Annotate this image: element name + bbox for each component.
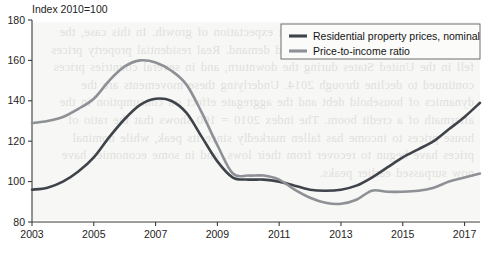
x-tick-label: 2013	[329, 228, 353, 240]
chart-legend: Residential property prices, nominalPric…	[281, 24, 480, 59]
y-tick-label: 160	[7, 54, 25, 66]
x-tick-group: 20032005200720092011201320152017	[20, 222, 476, 240]
series-group	[32, 60, 480, 204]
chart-title: Index 2010=100	[32, 3, 108, 15]
y-tick-group: 80100120140160180	[7, 14, 32, 228]
y-tick-label: 100	[7, 175, 25, 187]
x-tick-label: 2009	[206, 228, 230, 240]
x-tick-label: 2011	[268, 228, 291, 240]
x-tick-label: 2017	[453, 228, 477, 240]
y-tick-label: 80	[13, 216, 25, 228]
series-line-nominal	[32, 98, 480, 190]
legend-label-0: Residential property prices, nominal	[313, 30, 480, 42]
line-chart-svg: Index 2010=100 80100120140160180 2003200…	[0, 0, 492, 259]
x-tick-label: 2003	[20, 228, 44, 240]
y-tick-label: 120	[7, 135, 25, 147]
x-tick-label: 2015	[391, 228, 415, 240]
y-axis: 80100120140160180	[7, 14, 32, 228]
y-tick-label: 140	[7, 94, 25, 106]
legend-label-1: Price-to-income ratio	[313, 45, 410, 57]
x-axis: 20032005200720092011201320152017	[20, 222, 480, 240]
chart-figure: ne explained by a sustained, correct exp…	[0, 0, 492, 259]
x-tick-label: 2005	[82, 228, 106, 240]
series-line-price-to-income	[32, 60, 480, 204]
x-tick-label: 2007	[144, 228, 168, 240]
y-tick-label: 180	[7, 14, 25, 26]
